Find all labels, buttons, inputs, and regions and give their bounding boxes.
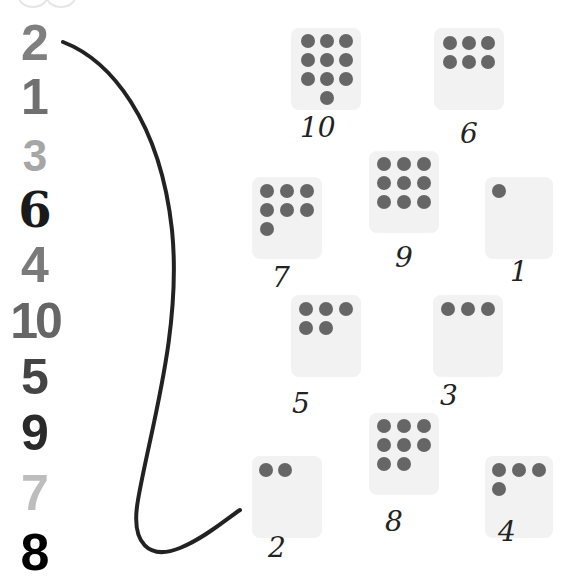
matching-line — [0, 0, 564, 581]
